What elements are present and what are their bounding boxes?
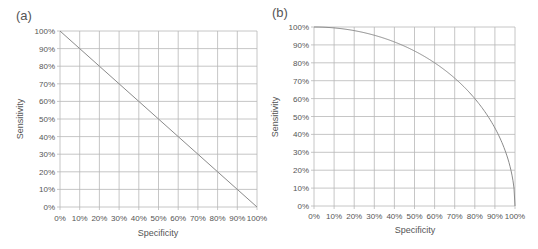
panel-b-x-tick-label: 10% [326, 212, 342, 221]
panel-b-grid [311, 27, 515, 209]
panel-a-x-tick-label: 80% [210, 214, 226, 223]
panel-a-x-tick-label: 100% [247, 214, 267, 223]
chart-canvas: (a) 0%10%20%30%40%50%60%70%80%90%100% 0%… [0, 0, 538, 249]
panel-b-x-ticks: 0%10%20%30%40%50%60%70%80%90%100% [308, 212, 525, 221]
panel-a-x-tick-label: 20% [91, 214, 107, 223]
panel-a-x-tick-label: 40% [131, 214, 147, 223]
panel-b-x-tick-label: 100% [505, 212, 525, 221]
panel-b: (b) 0%10%20%30%40%50%60%70%80%90%100% 0%… [270, 5, 525, 235]
panel-a-x-tick-label: 50% [150, 214, 166, 223]
panel-b-x-tick-label: 20% [346, 212, 362, 221]
panel-a-y-tick-label: 100% [35, 27, 55, 36]
panel-b-y-tick-label: 40% [293, 130, 309, 139]
panel-b-y-tick-label: 100% [289, 23, 309, 32]
panel-a-y-tick-label: 20% [39, 168, 55, 177]
panel-b-y-tick-label: 50% [293, 113, 309, 122]
panel-b-x-tick-label: 80% [467, 212, 483, 221]
panel-a-xlabel: Specificity [138, 228, 179, 238]
panel-a-x-tick-label: 70% [190, 214, 206, 223]
panel-b-x-tick-label: 40% [386, 212, 402, 221]
panel-b-y-tick-label: 60% [293, 95, 309, 104]
panel-a-x-tick-label: 10% [72, 214, 88, 223]
panel-b-x-tick-label: 90% [487, 212, 503, 221]
panel-a-ylabel: Sensitivity [15, 98, 25, 139]
panel-b-x-tick-label: 70% [447, 212, 463, 221]
panel-b-y-tick-label: 30% [293, 148, 309, 157]
panel-b-x-tick-label: 50% [406, 212, 422, 221]
panel-a-y-tick-label: 40% [39, 133, 55, 142]
panel-a-y-tick-label: 90% [39, 45, 55, 54]
panel-a-y-tick-label: 30% [39, 150, 55, 159]
panel-b-y-tick-label: 70% [293, 77, 309, 86]
panel-b-x-tick-label: 30% [366, 212, 382, 221]
panel-a-title: (a) [16, 8, 32, 23]
panel-b-y-tick-label: 80% [293, 59, 309, 68]
panel-a-y-tick-label: 10% [39, 185, 55, 194]
panel-a-y-tick-label: 80% [39, 62, 55, 71]
panel-b-ylabel: Sensitivity [270, 96, 280, 137]
panel-b-y-tick-label: 90% [293, 41, 309, 50]
panel-a-y-tick-label: 60% [39, 97, 55, 106]
panel-b-y-tick-label: 10% [293, 184, 309, 193]
panel-b-x-tick-label: 0% [308, 212, 320, 221]
panel-a-grid [57, 31, 257, 210]
panel-a-x-tick-label: 60% [170, 214, 186, 223]
panel-a-x-tick-label: 90% [229, 214, 245, 223]
panel-b-y-tick-label: 20% [293, 166, 309, 175]
panel-a-y-tick-label: 50% [39, 115, 55, 124]
panel-b-y-tick-label: 0% [297, 202, 309, 211]
panel-b-x-tick-label: 60% [427, 212, 443, 221]
panel-a-y-tick-label: 0% [43, 203, 55, 212]
panel-a-x-ticks: 0%10%20%30%40%50%60%70%80%90%100% [54, 214, 267, 223]
panel-b-title: (b) [272, 5, 288, 20]
panel-b-xlabel: Specificity [395, 225, 436, 235]
panel-a: (a) 0%10%20%30%40%50%60%70%80%90%100% 0%… [15, 8, 267, 238]
panel-a-x-tick-label: 30% [111, 214, 127, 223]
panel-a-x-tick-label: 0% [54, 214, 66, 223]
panel-b-y-ticks: 0%10%20%30%40%50%60%70%80%90%100% [289, 23, 309, 211]
panel-a-y-tick-label: 70% [39, 80, 55, 89]
panel-a-y-ticks: 0%10%20%30%40%50%60%70%80%90%100% [35, 27, 55, 212]
